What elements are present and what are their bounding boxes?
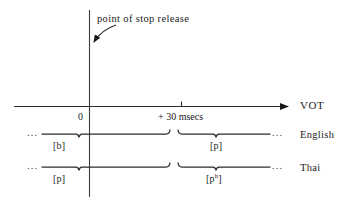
axis-name-vot: VOT — [300, 100, 324, 111]
annotation-arrow — [94, 25, 116, 42]
english-right-ellipsis: ... — [272, 128, 283, 138]
axis-origin-label: 0 — [78, 112, 83, 122]
english-right-brace — [178, 130, 270, 138]
english-left-brace — [42, 130, 170, 138]
thai-right-segment-close: ] — [218, 173, 222, 184]
thai-right-segment-base: [p — [206, 173, 215, 184]
stop-release-annotation: point of stop release — [97, 14, 189, 25]
thai-right-segment-label: [ph] — [206, 174, 222, 184]
axis-tick-label-30ms: + 30 msecs — [158, 112, 203, 122]
row-name-english: English — [300, 130, 334, 141]
thai-right-ellipsis: ... — [272, 161, 283, 171]
english-right-segment-label: [p] — [210, 141, 222, 151]
vot-diagram: point of stop release 0 + 30 msecs VOT .… — [0, 0, 348, 203]
english-left-segment-label: [b] — [53, 141, 65, 151]
english-left-ellipsis: ... — [27, 128, 38, 138]
thai-right-brace — [178, 163, 270, 171]
row-name-thai: Thai — [300, 163, 320, 174]
thai-left-ellipsis: ... — [27, 161, 38, 171]
thai-left-segment-label: [p] — [53, 174, 65, 184]
thai-left-brace — [42, 163, 170, 171]
